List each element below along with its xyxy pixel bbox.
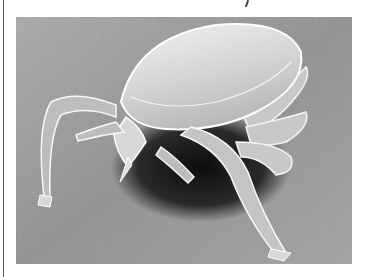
tick-illustration [16, 17, 352, 264]
tick-micrograph [16, 17, 352, 264]
page-edge-line [3, 0, 4, 277]
tick-foot-left [38, 195, 52, 207]
top-pen-stroke [245, 0, 249, 7]
